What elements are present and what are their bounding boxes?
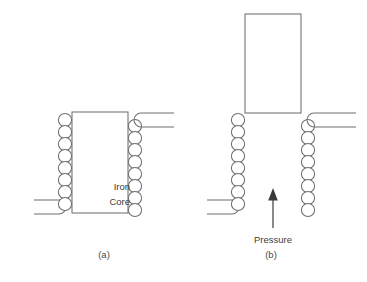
coil-turn [301, 167, 314, 180]
pressure-arrow-icon [268, 188, 278, 228]
panel-b-right-coil [301, 119, 314, 216]
coil-turn [58, 137, 71, 150]
panel-b-left-coil [231, 113, 244, 210]
panel-caption-a: (a) [98, 249, 110, 260]
coil-turn [301, 203, 314, 216]
coil-turn [58, 149, 71, 162]
pressure-label: Pressure [254, 234, 292, 245]
coil-turn [301, 179, 314, 192]
solenoid-diagram: Iron Core (a) [0, 0, 367, 282]
coil-turn [301, 143, 314, 156]
coil-turn [301, 191, 314, 204]
coil-turn [128, 155, 141, 168]
panel-a: Iron Core (a) [34, 112, 174, 260]
coil-turn [231, 137, 244, 150]
iron-core-box-b [245, 14, 301, 113]
coil-turn [301, 155, 314, 168]
coil-turn [128, 143, 141, 156]
pressure-arrow-head [268, 188, 278, 201]
coil-turn [231, 161, 244, 174]
coil-turn [301, 131, 314, 144]
coil-turn [58, 161, 71, 174]
coil-turn [231, 197, 244, 210]
coil-turn [58, 197, 71, 210]
coil-turn [128, 191, 141, 204]
coil-turn [58, 125, 71, 138]
coil-turn [231, 113, 244, 126]
figure-canvas: Iron Core (a) [0, 0, 367, 282]
coil-turn [301, 119, 314, 132]
panel-a-right-coil [128, 119, 141, 216]
coil-turn [58, 113, 71, 126]
coil-turn [128, 179, 141, 192]
coil-turn [58, 173, 71, 186]
coil-turn [231, 125, 244, 138]
coil-turn [128, 203, 141, 216]
coil-turn [231, 149, 244, 162]
coil-turn [58, 185, 71, 198]
panel-b: Pressure (b) [207, 14, 356, 260]
iron-core-label-line2: Core [109, 196, 130, 207]
coil-turn [231, 185, 244, 198]
coil-turn [128, 119, 141, 132]
iron-core-label-line1: Iron [114, 181, 130, 192]
panel-a-left-coil [58, 113, 71, 210]
panel-caption-b: (b) [265, 249, 277, 260]
coil-turn [128, 131, 141, 144]
coil-turn [231, 173, 244, 186]
coil-turn [128, 167, 141, 180]
